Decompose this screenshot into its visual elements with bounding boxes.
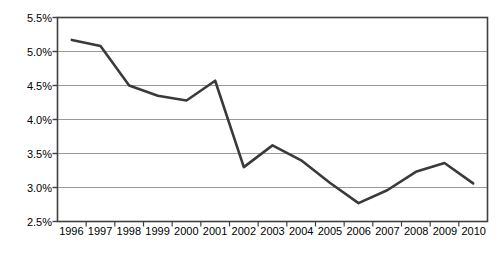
x-tick-label: 2000: [172, 226, 201, 246]
x-tick-label: 2008: [402, 226, 431, 246]
x-tick-label: 2005: [316, 226, 345, 246]
x-tick-label: 2003: [258, 226, 287, 246]
x-axis: 1996199719981999200020012002200320042005…: [57, 226, 488, 246]
x-tick-label: 2007: [373, 226, 402, 246]
x-tick-label: 2004: [287, 226, 316, 246]
x-tick-label: 1997: [86, 226, 115, 246]
x-tick-label: 1996: [57, 226, 86, 246]
plot-area: [0, 0, 504, 263]
x-tick-label: 2010: [459, 226, 488, 246]
x-tick-label: 2009: [431, 226, 460, 246]
x-tick-label: 2002: [229, 226, 258, 246]
x-tick-label: 2006: [344, 226, 373, 246]
x-tick-label: 2001: [201, 226, 230, 246]
data-series-line: [72, 40, 473, 203]
x-tick-label: 1998: [114, 226, 143, 246]
x-tick-label: 1999: [143, 226, 172, 246]
line-chart: 5.5%5.0%4.5%4.0%3.5%3.0%2.5% 19961997199…: [0, 0, 504, 263]
gridlines: [58, 52, 488, 188]
